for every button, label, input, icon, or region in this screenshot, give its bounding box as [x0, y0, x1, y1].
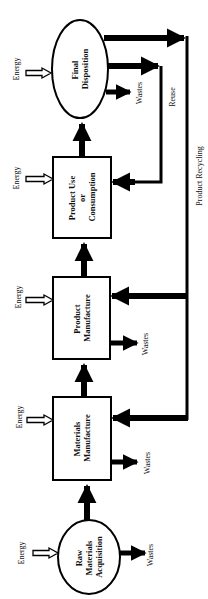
- use-label-3: Consumption: [87, 172, 97, 221]
- final-label-1: Final: [70, 60, 80, 80]
- wastes-label-materials: Wastes: [143, 452, 152, 474]
- energy-arrow-materials: [27, 415, 53, 425]
- raw-label-1: Raw: [74, 549, 84, 566]
- life-cycle-diagram: Final Disposition Product Use or Consump…: [0, 0, 208, 599]
- energy-arrow-raw: [33, 548, 58, 558]
- product-label-2: Manufacture: [82, 294, 92, 342]
- materials-label-1: Materials: [72, 421, 82, 457]
- raw-label-2: Materials: [84, 540, 94, 576]
- wastes-label-final: Wastes: [135, 82, 144, 104]
- svg-text:Materials Manufacture: Materials Manufacture: [72, 414, 92, 462]
- energy-label-use: Energy: [12, 167, 21, 190]
- reuse-label: Reuse: [168, 87, 177, 107]
- energy-label-final: Energy: [12, 58, 21, 81]
- wastes-label-product: Wastes: [141, 333, 150, 355]
- use-label-1: Product Use: [67, 176, 77, 221]
- raw-label-3: Acquisition: [94, 536, 104, 578]
- energy-label-product: Energy: [14, 286, 23, 309]
- wastes-label-raw: Wastes: [146, 544, 155, 566]
- energy-arrow-final: [26, 68, 51, 78]
- energy-label-materials: Energy: [15, 406, 24, 429]
- product-label-1: Product: [72, 304, 82, 333]
- wastes-labels: Wastes Wastes Wastes Wastes: [135, 82, 155, 566]
- energy-arrow-use: [26, 174, 53, 184]
- energy-label-raw: Energy: [17, 542, 26, 565]
- final-label-2: Disposition: [80, 48, 90, 89]
- energy-arrow-product: [26, 295, 53, 305]
- energy-labels: Energy Energy Energy Energy Energy: [12, 58, 26, 565]
- use-label-2: or: [77, 194, 87, 202]
- materials-label-2: Manufacture: [82, 414, 92, 462]
- product-recycling-label: Product Recycling: [195, 146, 204, 205]
